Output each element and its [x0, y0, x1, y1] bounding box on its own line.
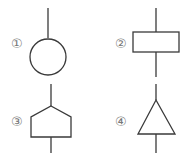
figure-rectangle: ②	[115, 8, 179, 77]
label-2: ②	[115, 36, 127, 51]
figure-circle: ①	[11, 8, 66, 75]
rectangle-shape	[133, 32, 179, 52]
figure-pentagon: ③	[11, 84, 71, 153]
label-1: ①	[11, 36, 23, 51]
pentagon-shape	[31, 106, 71, 137]
figure-triangle: ④	[115, 84, 175, 153]
label-3: ③	[11, 114, 23, 129]
symbols-diagram: ① ② ③ ④	[0, 0, 190, 168]
triangle-shape	[138, 100, 175, 134]
circle-shape	[30, 39, 66, 75]
label-4: ④	[115, 114, 127, 129]
